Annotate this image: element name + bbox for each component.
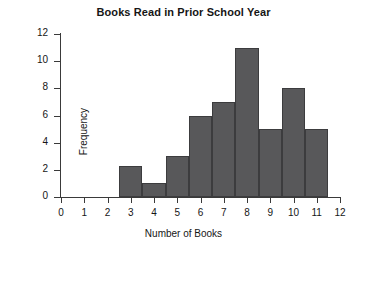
- x-tick-mark: [247, 198, 248, 203]
- histogram-bar: [119, 166, 142, 197]
- histogram-bar: [235, 48, 258, 197]
- x-axis-title: Number of Books: [0, 228, 367, 239]
- y-tick-mark: [54, 197, 60, 198]
- histogram-bar: [142, 183, 165, 197]
- histogram-figure: Books Read in Prior School Year 02468101…: [0, 0, 367, 282]
- y-axis-title: Frequency: [78, 82, 89, 182]
- y-tick-label: 4: [8, 136, 48, 147]
- x-tick-label: 5: [165, 207, 189, 218]
- y-tick-label: 12: [8, 27, 48, 38]
- x-tick-label: 6: [189, 207, 213, 218]
- x-tick-label: 1: [72, 207, 96, 218]
- x-tick-label: 0: [49, 207, 73, 218]
- y-tick-mark: [54, 34, 60, 35]
- histogram-bar: [166, 156, 189, 197]
- y-tick-label: 6: [8, 109, 48, 120]
- x-tick-mark: [177, 198, 178, 203]
- x-tick-mark: [224, 198, 225, 203]
- histogram-bar: [212, 102, 235, 197]
- x-tick-mark: [294, 198, 295, 203]
- x-tick-label: 10: [282, 207, 306, 218]
- histogram-bar: [259, 129, 282, 197]
- y-tick-mark: [54, 61, 60, 62]
- x-tick-label: 8: [235, 207, 259, 218]
- x-tick-mark: [84, 198, 85, 203]
- x-tick-mark: [201, 198, 202, 203]
- histogram-bar: [282, 88, 305, 197]
- y-tick-mark: [54, 143, 60, 144]
- y-tick-label: 2: [8, 163, 48, 174]
- y-tick-mark: [54, 170, 60, 171]
- y-tick-mark: [54, 116, 60, 117]
- histogram-bar: [305, 129, 328, 197]
- y-tick-label: 10: [8, 54, 48, 65]
- x-tick-label: 9: [258, 207, 282, 218]
- chart-title: Books Read in Prior School Year: [0, 6, 367, 18]
- x-tick-mark: [317, 198, 318, 203]
- x-tick-mark: [340, 198, 341, 203]
- x-tick-mark: [108, 198, 109, 203]
- x-tick-mark: [270, 198, 271, 203]
- x-tick-mark: [154, 198, 155, 203]
- x-tick-label: 3: [119, 207, 143, 218]
- x-tick-label: 7: [212, 207, 236, 218]
- histogram-bar: [189, 116, 212, 198]
- x-tick-label: 12: [328, 207, 352, 218]
- y-tick-label: 0: [8, 190, 48, 201]
- x-tick-label: 2: [96, 207, 120, 218]
- x-tick-label: 11: [305, 207, 329, 218]
- x-tick-mark: [131, 198, 132, 203]
- y-tick-label: 8: [8, 81, 48, 92]
- x-tick-mark: [61, 198, 62, 203]
- y-tick-mark: [54, 88, 60, 89]
- plot-area: Frequency: [61, 34, 340, 197]
- x-tick-label: 4: [142, 207, 166, 218]
